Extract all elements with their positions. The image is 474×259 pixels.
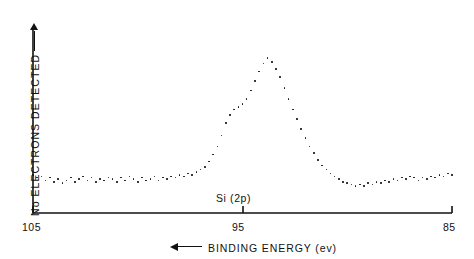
arrow-up-icon: [30, 23, 38, 30]
data-point: [288, 98, 290, 100]
data-point: [330, 173, 332, 175]
data-point: [300, 128, 302, 130]
data-point: [208, 161, 210, 163]
data-point: [233, 109, 235, 111]
data-point: [376, 181, 378, 183]
data-point: [271, 61, 273, 63]
data-point: [49, 177, 51, 179]
series-annotation-si-2p: Si (2p): [216, 192, 251, 204]
data-point: [439, 174, 441, 176]
data-point: [275, 68, 277, 70]
data-point: [426, 178, 428, 180]
data-point: [108, 177, 110, 179]
data-point: [204, 166, 206, 168]
data-point: [367, 182, 369, 184]
y-axis-label: No ELECTRONS DETECTED: [24, 16, 44, 216]
data-point: [372, 184, 374, 186]
data-point: [91, 177, 93, 179]
data-point: [116, 181, 118, 183]
data-point: [95, 181, 97, 183]
data-point: [267, 57, 269, 59]
data-point: [66, 180, 68, 182]
data-point: [434, 177, 436, 179]
data-point: [154, 176, 156, 178]
data-point: [309, 146, 311, 148]
data-point: [133, 178, 135, 180]
data-point: [112, 178, 114, 180]
data-point: [250, 90, 252, 92]
data-point: [384, 180, 386, 182]
data-point: [359, 184, 361, 186]
data-point: [317, 159, 319, 161]
data-point: [179, 174, 181, 176]
data-point: [447, 173, 449, 175]
data-point: [53, 181, 55, 183]
data-point: [57, 178, 59, 180]
xps-spectrum-figure: No ELECTRONS DETECTED 105 95 85 BINDING …: [0, 0, 474, 259]
data-point: [200, 169, 202, 171]
data-point: [388, 181, 390, 183]
data-point: [145, 180, 147, 182]
data-point: [401, 177, 403, 179]
data-point: [212, 154, 214, 156]
data-point: [246, 98, 248, 100]
data-point: [137, 181, 139, 183]
data-point: [191, 174, 193, 176]
x-tick-label-85: 85: [443, 221, 456, 233]
data-point: [141, 177, 143, 179]
data-point: [183, 176, 185, 178]
data-point: [45, 180, 47, 182]
data-point: [238, 106, 240, 108]
y-axis-label-rule: [34, 31, 35, 51]
data-point: [221, 135, 223, 137]
data-point: [422, 177, 424, 179]
data-point: [225, 122, 227, 124]
data-point: [443, 176, 445, 178]
data-point: [162, 177, 164, 179]
data-point: [229, 114, 231, 116]
data-point: [284, 87, 286, 89]
data-point: [321, 165, 323, 167]
data-point: [405, 178, 407, 180]
data-point: [413, 177, 415, 179]
data-point: [296, 118, 298, 120]
data-point: [305, 137, 307, 139]
data-point: [418, 180, 420, 182]
data-point: [351, 184, 353, 186]
x-tick-label-95: 95: [232, 221, 245, 233]
data-point: [292, 109, 294, 111]
data-point: [78, 178, 80, 180]
data-point: [342, 181, 344, 183]
arrow-left-icon: [170, 243, 178, 251]
data-point: [150, 178, 152, 180]
data-point: [124, 180, 126, 182]
data-point: [120, 177, 122, 179]
data-point: [158, 180, 160, 182]
data-point: [313, 152, 315, 154]
y-axis-label-text: No ELECTRONS DETECTED: [29, 54, 41, 216]
data-point: [355, 185, 357, 187]
data-point: [99, 178, 101, 180]
x-axis-title: BINDING ENERGY (ev): [170, 240, 337, 254]
data-point: [346, 182, 348, 184]
data-point: [334, 176, 336, 178]
data-point: [62, 182, 64, 184]
data-point: [103, 180, 105, 182]
data-point: [70, 177, 72, 179]
data-point: [187, 173, 189, 175]
x-tick-label-105: 105: [22, 221, 41, 233]
data-point: [129, 176, 131, 178]
data-point: [254, 80, 256, 82]
data-point: [263, 63, 265, 65]
data-point: [175, 177, 177, 179]
data-point: [258, 71, 260, 73]
data-point: [166, 178, 168, 180]
data-point: [409, 176, 411, 178]
data-point: [170, 176, 172, 178]
data-point: [380, 182, 382, 184]
data-point: [338, 178, 340, 180]
data-point: [393, 178, 395, 180]
data-point: [397, 180, 399, 182]
data-point: [242, 103, 244, 105]
x-axis-title-text: BINDING ENERGY (ev): [208, 242, 337, 254]
